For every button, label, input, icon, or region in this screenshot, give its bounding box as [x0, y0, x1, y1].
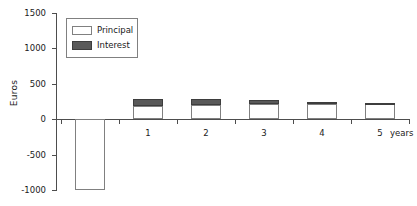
- bar-principal-0: [75, 119, 105, 190]
- y-tick-mark-500: [52, 84, 57, 85]
- x-tick-mark-6: [409, 119, 410, 124]
- x-tick-mark-3: [235, 119, 236, 124]
- y-tick-mark-1500: [52, 13, 57, 14]
- y-tick-label-m1000: -1000: [2, 185, 46, 195]
- x-tick-mark-4: [293, 119, 294, 124]
- y-axis-tick-labels: 1500 1000 500 0 -500 -1000: [0, 0, 46, 206]
- y-axis-line: [56, 13, 57, 190]
- bar-interest-4: [307, 102, 337, 104]
- y-tick-label-m500: -500: [2, 150, 46, 160]
- legend-label-interest: Interest: [97, 41, 130, 50]
- chart-legend: Principal Interest: [66, 18, 138, 58]
- bar-interest-5: [365, 103, 395, 105]
- x-tick-label-5: 5: [377, 128, 382, 138]
- y-tick-mark-m500: [52, 155, 57, 156]
- x-tick-mark-1: [119, 119, 120, 124]
- bar-chart: Euros 1500 1000 500 0 -500 -1000 0 1 2 3: [0, 0, 417, 206]
- y-tick-mark-0: [52, 119, 57, 120]
- x-tick-mark-2: [177, 119, 178, 124]
- y-tick-label-0: 0: [2, 114, 46, 124]
- legend-swatch-interest-icon: [72, 41, 92, 50]
- x-tick-mark-0: [61, 119, 62, 124]
- legend-item-principal: Principal: [72, 23, 132, 38]
- x-tick-label-4: 4: [319, 128, 324, 138]
- bar-principal-4: [307, 104, 337, 119]
- bar-interest-2: [191, 99, 221, 105]
- bar-principal-1: [133, 106, 163, 119]
- x-axis-title: years: [390, 128, 413, 138]
- y-tick-mark-1000: [52, 48, 57, 49]
- x-tick-label-2: 2: [203, 128, 208, 138]
- x-axis-line: [56, 119, 410, 120]
- x-tick-label-3: 3: [261, 128, 266, 138]
- x-tick-label-1: 1: [145, 128, 150, 138]
- legend-swatch-principal-icon: [72, 26, 92, 35]
- bar-principal-3: [249, 104, 279, 119]
- legend-label-principal: Principal: [97, 26, 133, 35]
- y-tick-mark-m1000: [52, 190, 57, 191]
- y-tick-label-1500: 1500: [2, 8, 46, 18]
- bar-interest-3: [249, 100, 279, 104]
- y-tick-label-1000: 1000: [2, 43, 46, 53]
- y-tick-label-500: 500: [2, 79, 46, 89]
- legend-item-interest: Interest: [72, 38, 132, 53]
- bar-interest-1: [133, 99, 163, 106]
- bar-principal-5: [365, 104, 395, 119]
- bar-principal-2: [191, 105, 221, 119]
- x-tick-mark-5: [351, 119, 352, 124]
